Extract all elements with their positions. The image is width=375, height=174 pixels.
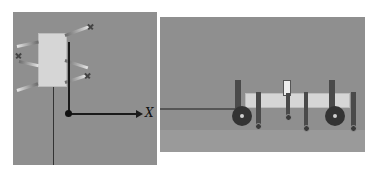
y-axis-line	[68, 42, 70, 114]
foot-icon	[15, 52, 22, 59]
robot-leg	[17, 40, 39, 48]
horizon-line	[160, 108, 235, 110]
ball-foot	[303, 125, 310, 132]
foot-icon	[87, 23, 94, 30]
ground-plane	[160, 130, 365, 152]
robot-leg	[256, 92, 261, 125]
wheel-hub	[240, 114, 244, 118]
wheel-hub	[333, 114, 337, 118]
top-view-panel: X	[13, 12, 157, 165]
robot-body-top	[38, 33, 67, 87]
ball-foot	[285, 114, 292, 121]
x-axis-line	[68, 113, 138, 115]
ball-foot	[255, 123, 262, 130]
robot-leg	[304, 92, 308, 127]
arrow-right-icon	[136, 110, 143, 118]
robot-leg	[286, 93, 290, 115]
vertical-reference-line	[53, 82, 54, 165]
robot-leg	[351, 92, 356, 127]
x-axis-label: X	[145, 106, 154, 120]
robot-leg	[19, 60, 39, 67]
foot-icon	[84, 72, 91, 79]
robot-leg	[17, 82, 39, 92]
ball-foot	[350, 125, 357, 132]
origin-dot	[65, 110, 72, 117]
side-view-panel	[160, 17, 365, 152]
